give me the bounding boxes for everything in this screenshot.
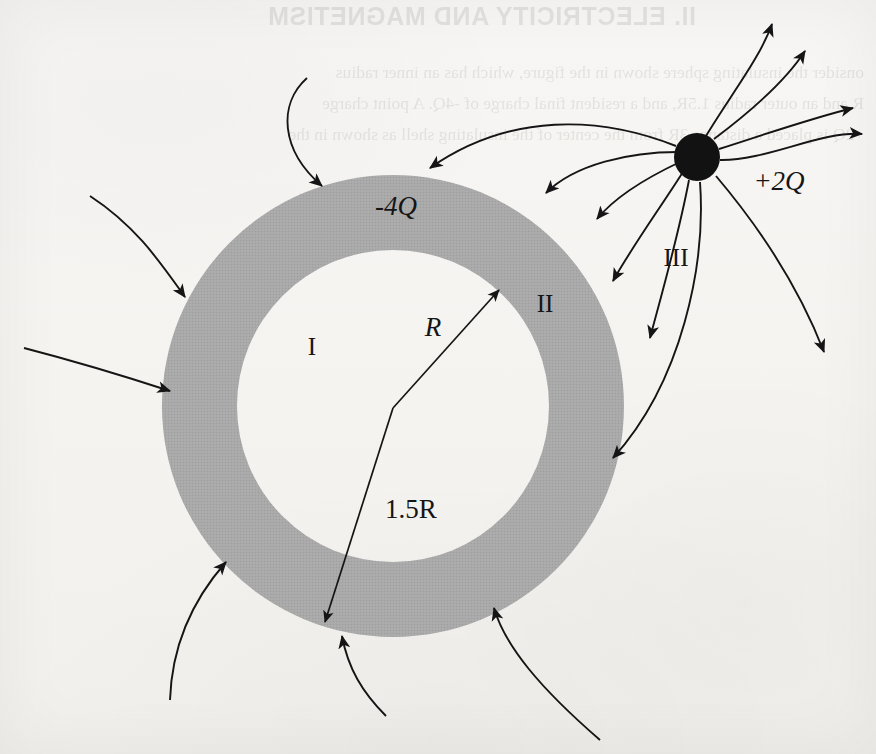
- figure-page: II. ELECTRICITY AND MAGNETISM onsider th…: [0, 0, 876, 754]
- outer-radius-label: 1.5R: [385, 494, 437, 524]
- insulating-shell: [0, 0, 876, 754]
- physics-diagram: -4Q +2Q I II III R 1.5R: [0, 0, 876, 754]
- point-charge-label: +2Q: [753, 166, 804, 196]
- region-I-label: I: [308, 333, 316, 360]
- shell-charge-label: -4Q: [375, 191, 417, 221]
- inner-radius-label: R: [424, 312, 442, 342]
- region-III-label: III: [664, 244, 689, 271]
- region-II-label: II: [537, 290, 554, 317]
